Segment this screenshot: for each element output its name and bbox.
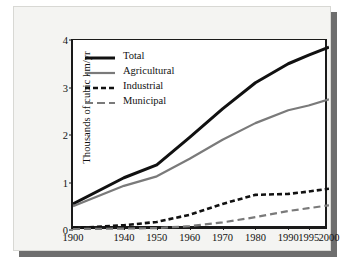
plot-area: Thousands of cubic km/yr 01234 190019401… — [71, 39, 327, 229]
legend-item-industrial: Industrial — [85, 78, 174, 93]
legend-swatch-industrial-icon — [85, 80, 115, 92]
legend-label: Industrial — [123, 80, 163, 91]
series-line-agricultural — [73, 99, 329, 206]
x-tick-label: 1900 — [63, 232, 84, 243]
legend-item-municipal: Municipal — [85, 93, 174, 108]
x-tick-label: 1990 — [278, 232, 299, 243]
figure-container: Thousands of cubic km/yr 01234 190019401… — [0, 0, 349, 272]
x-tick-label: 1960 — [179, 232, 200, 243]
y-tick-label: 3 — [63, 82, 68, 93]
legend-label: Municipal — [123, 95, 166, 106]
legend-swatch-total-icon — [85, 50, 115, 62]
y-tick-label: 2 — [63, 130, 68, 141]
y-tick-label: 4 — [63, 35, 68, 46]
x-tick-label: 1995 — [298, 232, 319, 243]
legend-label: Agricultural — [123, 65, 174, 76]
legend-swatch-municipal-icon — [85, 95, 115, 107]
panel-drop-shadow-right — [331, 12, 337, 257]
figure-panel: Thousands of cubic km/yr 01234 190019401… — [13, 6, 331, 251]
series-line-industrial — [73, 189, 329, 228]
series-line-municipal — [73, 205, 329, 229]
x-tick-label: 1950 — [146, 232, 167, 243]
chart-legend: TotalAgriculturalIndustrialMunicipal — [85, 48, 174, 108]
legend-item-agricultural: Agricultural — [85, 63, 174, 78]
x-tick-label: 1940 — [113, 232, 134, 243]
legend-label: Total — [123, 50, 144, 61]
legend-swatch-agricultural-icon — [85, 65, 115, 77]
x-tick-label: 1980 — [245, 232, 266, 243]
x-tick-label: 1970 — [212, 232, 233, 243]
legend-item-total: Total — [85, 48, 174, 63]
panel-drop-shadow-bottom — [19, 251, 337, 257]
y-tick-label: 1 — [63, 177, 68, 188]
x-tick-label: 2000 — [319, 232, 340, 243]
